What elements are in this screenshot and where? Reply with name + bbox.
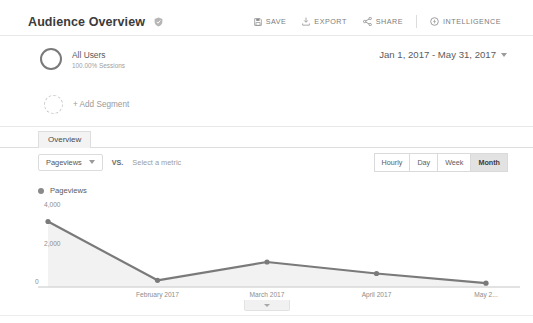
share-button[interactable]: SHARE [355, 15, 411, 28]
tab-bar: Overview [0, 128, 533, 148]
intelligence-spark-icon [430, 17, 439, 26]
y-axis-tick-label: 4,000 [44, 201, 61, 208]
granularity-toggle-group: Hourly Day Week Month [374, 153, 508, 172]
granularity-month[interactable]: Month [470, 153, 508, 172]
collapse-caret-icon [264, 304, 270, 307]
chart-data-point[interactable] [45, 219, 50, 224]
legend-color-dot [38, 188, 44, 194]
add-segment-ring-icon [44, 95, 63, 114]
segment-all-users[interactable]: All Users 100.00% Sessions [40, 48, 125, 70]
legend-label: Pageviews [50, 186, 87, 195]
save-label: SAVE [266, 17, 287, 26]
analytics-audience-overview-page: Audience Overview SAVE [0, 0, 533, 323]
date-range-picker[interactable]: Jan 1, 2017 - May 31, 2017 [379, 49, 507, 60]
intelligence-label: INTELLIGENCE [443, 17, 501, 26]
compare-metric-select[interactable]: Select a metric [132, 158, 181, 167]
save-button[interactable]: SAVE [246, 15, 295, 28]
chart-collapse-handle[interactable] [244, 300, 290, 311]
chart-data-point[interactable] [155, 278, 160, 283]
segment-title: All Users [72, 50, 125, 60]
metric-select-value: Pageviews [46, 158, 82, 167]
x-axis-tick-label: April 2017 [362, 291, 392, 298]
chart-data-point[interactable] [483, 281, 488, 286]
y-axis-tick-label: 2,000 [44, 240, 61, 247]
chevron-down-icon [501, 53, 507, 57]
add-segment-button[interactable]: + Add Segment [44, 95, 129, 114]
x-axis-tick-label: March 2017 [250, 291, 285, 298]
date-range-value: Jan 1, 2017 - May 31, 2017 [379, 49, 496, 60]
x-axis-tick-label: February 2017 [136, 291, 179, 298]
segment-all-users-text: All Users 100.00% Sessions [72, 50, 125, 69]
header-actions: SAVE EXPORT [246, 15, 509, 28]
granularity-day[interactable]: Day [409, 153, 437, 172]
intelligence-button[interactable]: INTELLIGENCE [422, 15, 509, 28]
chart-data-point[interactable] [264, 259, 269, 264]
vs-label: VS. [112, 158, 124, 167]
chevron-down-icon [89, 160, 95, 164]
chart-legend: Pageviews [38, 186, 87, 195]
page-title: Audience Overview [28, 15, 163, 29]
share-label: SHARE [376, 17, 403, 26]
chart-data-point[interactable] [374, 271, 379, 276]
granularity-week[interactable]: Week [437, 153, 470, 172]
segment-bar: All Users 100.00% Sessions + Add Segment… [0, 37, 533, 127]
granularity-hourly[interactable]: Hourly [374, 153, 410, 172]
export-download-icon [302, 17, 310, 26]
export-button[interactable]: EXPORT [294, 15, 354, 28]
pageviews-line-chart[interactable] [0, 198, 533, 296]
save-disk-icon [254, 18, 262, 26]
tab-overview[interactable]: Overview [38, 131, 91, 148]
page-header: Audience Overview SAVE [0, 8, 533, 36]
export-label: EXPORT [314, 17, 346, 26]
add-segment-label: + Add Segment [73, 100, 129, 109]
segment-ring-icon [40, 48, 62, 70]
header-divider [416, 15, 417, 28]
bottom-divider [0, 315, 533, 316]
chart-controls: Pageviews VS. Select a metric Hourly Day… [0, 149, 533, 175]
chart-canvas [0, 198, 533, 298]
x-axis-tick-label: May 2... [474, 291, 497, 298]
share-nodes-icon [363, 17, 372, 26]
tab-overview-label: Overview [48, 135, 81, 144]
y-axis-tick-label: 0 [35, 278, 39, 285]
metric-select[interactable]: Pageviews [38, 154, 103, 171]
shield-check-icon [154, 16, 163, 26]
page-title-text: Audience Overview [28, 15, 145, 29]
segment-subtitle: 100.00% Sessions [72, 62, 125, 69]
